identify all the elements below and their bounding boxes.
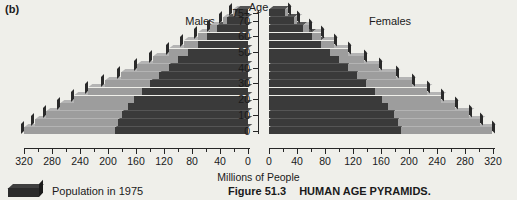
- age-band-bar: [269, 119, 493, 127]
- bar-segment-projected: [35, 119, 118, 126]
- age-tick-label: 20: [202, 94, 250, 105]
- bar-segment-population-1975: [269, 56, 339, 63]
- x-tick: [451, 149, 452, 152]
- bar-segment-population-1975: [269, 80, 366, 87]
- x-tick: [325, 149, 326, 154]
- x-tick: [409, 149, 410, 154]
- age-tick: [253, 52, 258, 53]
- figure-panel: (b) Age Males Females 01020304050607075+…: [0, 0, 517, 200]
- age-band-bar: [269, 127, 493, 135]
- bar-segment-projected: [121, 72, 160, 79]
- bar-segment-population-1975: [269, 111, 394, 118]
- x-tick: [178, 149, 179, 152]
- x-tick: [192, 149, 193, 154]
- x-tick: [220, 149, 221, 154]
- age-tick: [253, 115, 258, 116]
- x-tick: [66, 149, 67, 152]
- age-tick: [253, 21, 258, 22]
- x-tick: [297, 149, 298, 154]
- population-1975-swatch: [8, 184, 42, 195]
- age-tick: [253, 83, 258, 84]
- bar-segment-projected: [153, 56, 178, 63]
- x-tick: [24, 149, 25, 154]
- x-tick: [381, 149, 382, 154]
- bar-segment-population-1975: [269, 72, 357, 79]
- x-tick: [423, 149, 424, 152]
- bar-segment-population-1975: [269, 88, 375, 95]
- x-tick: [493, 149, 494, 154]
- bar-segment-projected: [394, 111, 470, 118]
- x-tick: [52, 149, 53, 154]
- x-tick: [94, 149, 95, 152]
- bar-segment-projected: [348, 64, 379, 71]
- age-tick: [253, 99, 258, 100]
- bar-segment-projected: [60, 103, 127, 110]
- bar-segment-population-1975: [269, 119, 398, 126]
- bar-segment-projected: [24, 127, 115, 134]
- age-tick: [253, 13, 258, 14]
- x-axis-title: Millions of People: [0, 172, 517, 183]
- bar-segment-projected: [105, 80, 151, 87]
- age-band-bar: [269, 88, 493, 96]
- x-tick: [465, 149, 466, 154]
- bar-end-cap: [288, 2, 291, 16]
- bar-segment-projected: [303, 25, 309, 32]
- figure-number: Figure 51.3: [228, 185, 286, 197]
- bar-segment-projected: [357, 72, 396, 79]
- bar-segment-projected: [375, 88, 428, 95]
- age-band-bar: [269, 9, 493, 17]
- bar-segment-projected: [137, 64, 169, 71]
- age-tick-label: 75+: [202, 8, 250, 19]
- pyramid-plot-area: 01020304050607075+: [0, 12, 517, 140]
- bar-segment-population-1975: [269, 103, 388, 110]
- figure-caption: Figure 51.3 HUMAN AGE PYRAMIDS.: [228, 185, 431, 197]
- bar-segment-population-1975: [269, 96, 382, 103]
- bar-segment-projected: [401, 127, 492, 134]
- age-band-bar: [269, 80, 493, 88]
- age-band-bar: [269, 111, 493, 119]
- x-tick: [248, 149, 249, 154]
- bar-segment-population-1975: [269, 17, 294, 24]
- x-tick: [269, 149, 270, 154]
- age-tick: [253, 68, 258, 69]
- age-tick-label: 60: [202, 31, 250, 42]
- x-tick: [206, 149, 207, 152]
- x-tick: [367, 149, 368, 152]
- bar-segment-population-1975: [269, 9, 285, 16]
- age-tick: [253, 131, 258, 132]
- age-band-bar: [269, 64, 493, 72]
- bar-segment-projected: [321, 41, 334, 48]
- bar-segment-projected: [312, 33, 321, 40]
- x-tick: [353, 149, 354, 154]
- x-tick-label: 320: [4, 156, 44, 167]
- x-tick: [339, 149, 340, 152]
- x-tick: [395, 149, 396, 152]
- bar-segment-population-1975: [269, 25, 303, 32]
- bar-segment-projected: [382, 96, 442, 103]
- bar-segment-population-1975: [269, 33, 312, 40]
- bar-segment-projected: [74, 96, 134, 103]
- age-band-bar: [269, 103, 493, 111]
- bar-segment-projected: [398, 119, 481, 126]
- age-band-bar: [269, 33, 493, 41]
- figure-title: HUMAN AGE PYRAMIDS.: [299, 185, 431, 197]
- female-bars-group: [269, 12, 493, 140]
- x-tick: [311, 149, 312, 152]
- age-tick-label: 30: [202, 78, 250, 89]
- x-tick: [122, 149, 123, 152]
- bar-segment-population-1975: [269, 127, 401, 134]
- bar-segment-projected: [88, 88, 141, 95]
- x-tick: [150, 149, 151, 152]
- x-tick: [136, 149, 137, 154]
- x-tick: [80, 149, 81, 154]
- age-tick-label: 0: [202, 126, 250, 137]
- x-tick-label: 320: [473, 156, 513, 167]
- age-tick-label: 40: [202, 63, 250, 74]
- age-band-bar: [269, 25, 493, 33]
- bar-segment-projected: [339, 56, 364, 63]
- age-band-bar: [269, 17, 493, 25]
- bar-segment-population-1975: [269, 64, 348, 71]
- age-tick-label: 10: [202, 110, 250, 121]
- age-band-bar: [269, 72, 493, 80]
- bar-segment-projected: [388, 103, 455, 110]
